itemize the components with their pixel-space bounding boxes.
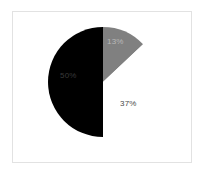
pie-label-13: 13% xyxy=(107,37,124,46)
pie-label-50: 50% xyxy=(60,71,77,80)
pie-slice-50[interactable] xyxy=(48,27,103,137)
pie-chart-figure: 13% 50% 37% xyxy=(0,0,204,175)
pie-svg xyxy=(0,0,204,175)
pie-wrapper xyxy=(0,0,204,175)
pie-label-37: 37% xyxy=(120,99,137,108)
